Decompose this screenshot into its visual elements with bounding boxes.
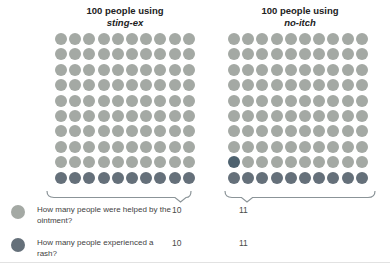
person-dot-rash — [256, 172, 268, 184]
person-dot — [112, 33, 124, 45]
person-dot — [271, 79, 283, 91]
person-dot — [342, 141, 354, 153]
person-dot — [256, 110, 268, 122]
person-dot — [69, 110, 81, 122]
person-dot — [98, 48, 110, 60]
person-dot — [256, 79, 268, 91]
person-dot — [140, 64, 152, 76]
person-dot — [55, 79, 67, 91]
person-dot — [271, 141, 283, 153]
person-dot — [327, 141, 339, 153]
person-dot — [69, 79, 81, 91]
person-dot — [327, 79, 339, 91]
person-dot — [256, 125, 268, 137]
person-dot — [112, 110, 124, 122]
person-dot — [342, 48, 354, 60]
person-dot — [313, 141, 325, 153]
person-dot — [83, 33, 95, 45]
person-dot — [169, 48, 181, 60]
person-dot — [69, 48, 81, 60]
person-dot-rash — [55, 172, 67, 184]
person-dot — [228, 48, 240, 60]
group-title-no-itch: 100 people using no-itch — [215, 5, 385, 29]
person-dot — [313, 64, 325, 76]
person-dot — [83, 95, 95, 107]
person-dot — [313, 33, 325, 45]
person-dot — [356, 110, 368, 122]
person-dot — [154, 79, 166, 91]
person-dot — [299, 64, 311, 76]
person-dot — [112, 95, 124, 107]
person-dot — [98, 33, 110, 45]
person-dot — [242, 33, 254, 45]
person-dot — [169, 79, 181, 91]
person-dot — [69, 156, 81, 168]
person-dot — [299, 156, 311, 168]
person-dot — [69, 141, 81, 153]
person-dot — [327, 95, 339, 107]
person-dot — [55, 95, 67, 107]
legend-helped-dot-icon — [11, 205, 25, 219]
person-dot-rash — [140, 172, 152, 184]
person-dot — [112, 125, 124, 137]
person-dot — [169, 33, 181, 45]
person-dot-rash — [169, 172, 181, 184]
person-dot — [342, 64, 354, 76]
person-dot — [356, 33, 368, 45]
person-dot — [299, 95, 311, 107]
person-dot — [242, 156, 254, 168]
group-title-line1: 100 people using — [215, 5, 385, 17]
person-dot — [256, 156, 268, 168]
person-dot — [242, 95, 254, 107]
person-dot — [285, 141, 297, 153]
person-dot — [140, 33, 152, 45]
person-dot — [112, 79, 124, 91]
person-dot — [271, 64, 283, 76]
person-dot — [154, 141, 166, 153]
bottom-divider — [0, 262, 390, 263]
person-dot — [112, 141, 124, 153]
person-dot — [356, 125, 368, 137]
person-dot — [271, 95, 283, 107]
person-dot — [271, 33, 283, 45]
person-dot — [83, 79, 95, 91]
underbrace-sting-ex — [46, 191, 192, 203]
person-dot — [98, 156, 110, 168]
person-dot — [183, 33, 195, 45]
person-dot — [327, 33, 339, 45]
person-dot — [228, 110, 240, 122]
person-dot — [356, 64, 368, 76]
person-dot — [256, 141, 268, 153]
person-dot — [356, 48, 368, 60]
person-dot — [228, 95, 240, 107]
person-dot — [183, 110, 195, 122]
person-dot — [285, 110, 297, 122]
person-dot — [183, 64, 195, 76]
person-dot — [271, 125, 283, 137]
person-dot — [154, 110, 166, 122]
person-dot — [140, 141, 152, 153]
question-helped: How many people were helped by the ointm… — [37, 204, 173, 226]
person-dot-rash — [285, 172, 297, 184]
group-name-no-itch: no-itch — [215, 17, 385, 29]
person-dot — [327, 110, 339, 122]
person-dot — [69, 125, 81, 137]
person-dot — [313, 95, 325, 107]
person-dot — [313, 79, 325, 91]
person-dot — [342, 156, 354, 168]
person-dot — [154, 33, 166, 45]
person-dot — [126, 110, 138, 122]
person-dot — [228, 79, 240, 91]
person-dot — [169, 125, 181, 137]
person-dot-rash — [69, 172, 81, 184]
person-dot — [112, 156, 124, 168]
person-dot — [169, 156, 181, 168]
person-dot — [55, 110, 67, 122]
person-dot — [154, 64, 166, 76]
person-dot — [140, 95, 152, 107]
person-dot-rash — [313, 172, 325, 184]
person-dot — [356, 79, 368, 91]
person-dot — [69, 95, 81, 107]
person-dot — [183, 156, 195, 168]
person-dot — [140, 48, 152, 60]
